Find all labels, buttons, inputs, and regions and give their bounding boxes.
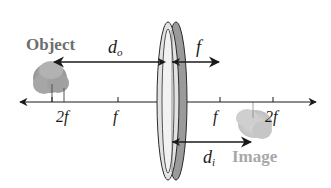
focal-length-label: f: [196, 38, 201, 56]
object-distance-base: d: [108, 37, 117, 57]
tick-label-right-2f: 2f: [265, 109, 277, 125]
object-label: Object: [26, 36, 75, 53]
image-distance-sub: i: [212, 156, 215, 168]
image-label: Image: [232, 148, 277, 165]
lens-diagram: Object do f 2f f f 2f di Image: [0, 0, 331, 188]
tick-label-left-2f: 2f: [56, 109, 68, 125]
image-distance-base: d: [203, 147, 212, 167]
tick-label-left-f: f: [113, 109, 117, 125]
image-distance-label: di: [203, 148, 215, 168]
converging-lens: [157, 22, 187, 180]
object-distance-sub: o: [117, 46, 123, 58]
object-distance-label: do: [108, 38, 123, 58]
object-tree-icon: [33, 61, 69, 102]
tick-label-right-f: f: [213, 109, 217, 125]
diagram-canvas: [0, 0, 331, 188]
